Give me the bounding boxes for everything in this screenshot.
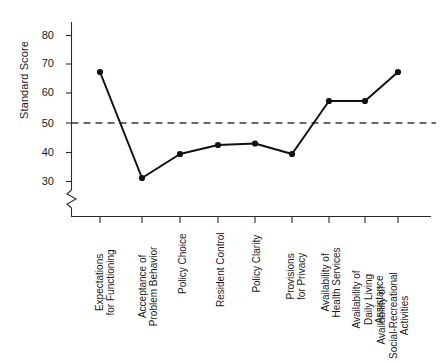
- data-point-6[interactable]: [326, 98, 332, 104]
- y-tick-label-70: 70: [28, 58, 54, 69]
- y-tick-label-40: 40: [28, 147, 54, 158]
- series-markers: [97, 69, 401, 181]
- x-tick-label-6-line1: Availability of: [320, 253, 331, 311]
- x-tick-label-0-line1: Expectations: [94, 254, 105, 311]
- y-tick-marks: [66, 36, 72, 182]
- y-tick-label-60: 60: [28, 87, 54, 98]
- x-tick-label-8-line2: Social-Recreational Activities: [388, 251, 411, 363]
- x-tick-label-7-line1: Availability of: [352, 270, 363, 328]
- data-point-5[interactable]: [289, 151, 295, 157]
- x-tick-label-5: Provisions for Privacy: [285, 233, 308, 319]
- x-tick-label-1-line2: Problem Behavior: [148, 232, 159, 340]
- data-point-2[interactable]: [177, 151, 183, 157]
- y-tick-label-50: 50: [28, 118, 54, 129]
- x-tick-label-2: Policy Choice: [177, 226, 188, 302]
- data-point-7[interactable]: [362, 98, 368, 104]
- x-tick-label-1: Acceptance of Problem Behavior: [137, 232, 160, 340]
- y-axis-break-icon: [67, 190, 76, 208]
- y-tick-label-30: 30: [28, 176, 54, 187]
- x-tick-marks: [100, 217, 398, 224]
- data-point-3[interactable]: [215, 142, 221, 148]
- data-point-0[interactable]: [97, 69, 103, 75]
- x-tick-label-4: Policy Clarity: [251, 226, 262, 302]
- x-tick-label-6: Availability of Health Services: [320, 233, 343, 331]
- x-tick-label-8-line1: Availability of: [377, 286, 388, 344]
- x-tick-label-1-line1: Acceptance of: [137, 255, 148, 318]
- x-tick-label-3: Resident Control: [215, 225, 226, 315]
- series-line-standard-score: [100, 72, 398, 178]
- x-tick-label-2-line1: Policy Choice: [177, 233, 188, 294]
- data-point-1[interactable]: [139, 175, 145, 181]
- x-tick-label-5-line1: Provisions: [285, 253, 296, 299]
- x-tick-label-0-line2: for Functioning: [105, 232, 116, 332]
- data-point-4[interactable]: [252, 140, 258, 146]
- data-point-8[interactable]: [395, 69, 401, 75]
- x-tick-label-8: Availability of Social-Recreational Acti…: [365, 251, 422, 363]
- x-tick-label-5-line2: for Privacy: [296, 233, 307, 319]
- x-tick-label-0: Expectations for Functioning: [94, 232, 117, 332]
- x-axis-spine: [72, 208, 432, 217]
- x-tick-label-3-line1: Resident Control: [215, 232, 226, 306]
- x-tick-label-4-line1: Policy Clarity: [251, 235, 262, 293]
- y-tick-label-80: 80: [28, 30, 54, 41]
